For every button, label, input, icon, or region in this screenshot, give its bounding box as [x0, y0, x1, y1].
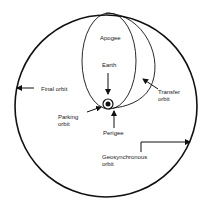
- transfer-orbit-label-2: orbit: [158, 96, 170, 103]
- orbit-diagram: Apogee Earth Final orbit Transfer orbit …: [0, 0, 210, 203]
- apogee-label: Apogee: [100, 35, 121, 42]
- transfer-orbit-path: [106, 13, 155, 108]
- inner-ellipse: [82, 13, 136, 109]
- geosync-label-2: orbit: [102, 161, 114, 168]
- final-orbit-label: Final orbit: [41, 86, 67, 93]
- parking-orbit-label-2: orbit: [58, 121, 70, 128]
- geosync-label-1: Geosynchronous: [102, 154, 147, 161]
- geosync-arrow-icon: [141, 142, 190, 152]
- earth-label: Earth: [102, 62, 116, 69]
- parking-orbit-label-1: Parking: [58, 114, 78, 121]
- earth-dot-icon: [106, 102, 111, 107]
- orbit-diagram-svg: [0, 0, 210, 203]
- transfer-orbit-label-1: Transfer: [158, 89, 180, 96]
- perigee-label: Perigee: [103, 130, 124, 137]
- parking-orbit-arrow-icon: [87, 107, 101, 112]
